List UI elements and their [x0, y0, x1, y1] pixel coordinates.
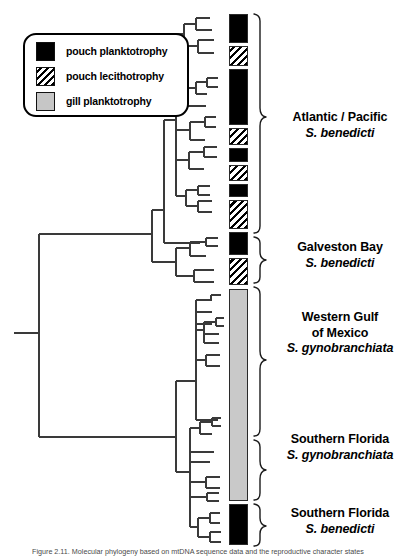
group-species: S. benedicti [272, 522, 408, 538]
group-location-2: of Mexico [272, 326, 408, 342]
black-square-icon [36, 42, 55, 61]
gray-square-icon [36, 92, 55, 111]
group-species: S. benedicti [272, 256, 408, 272]
hatched-square-icon [36, 67, 55, 86]
state-block [229, 504, 248, 545]
group-location: Atlantic / Pacific [272, 110, 408, 126]
state-block [229, 148, 248, 162]
legend-item-pouch-lecithotrophy: pouch lecithotrophy [36, 67, 164, 86]
legend-item-gill-planktotrophy: gill planktotrophy [36, 92, 151, 111]
state-block [229, 289, 248, 501]
group-location: Western Gulf [272, 310, 408, 326]
group-location: Southern Florida [272, 432, 408, 448]
group-species: S. benedicti [272, 126, 408, 142]
state-block [229, 46, 248, 66]
legend-item-label: pouch planktotrophy [66, 42, 168, 61]
group-label-galveston-bay: Galveston Bay S. benedicti [272, 240, 408, 271]
state-block [229, 184, 248, 197]
group-species: S. gynobranchiata [272, 341, 408, 357]
state-block [229, 128, 248, 145]
legend-item-label: gill planktotrophy [66, 92, 151, 111]
phylogeny-figure: pouch planktotrophy pouch lecithotrophy … [0, 0, 409, 560]
group-location: Galveston Bay [272, 240, 408, 256]
group-label-atlantic-pacific: Atlantic / Pacific S. benedicti [272, 110, 408, 141]
group-label-southern-florida-gynobranchiata: Southern Florida S. gynobranchiata [272, 432, 408, 463]
group-label-western-gulf: Western Gulf of Mexico S. gynobranchiata [272, 310, 408, 357]
legend: pouch planktotrophy pouch lecithotrophy … [23, 33, 189, 117]
state-block [229, 165, 248, 181]
group-species: S. gynobranchiata [272, 448, 408, 464]
legend-item-label: pouch lecithotrophy [66, 67, 164, 86]
group-label-southern-florida-benedicti: Southern Florida S. benedicti [272, 506, 408, 537]
state-block [229, 232, 248, 255]
figure-caption: Figure 2.11. Molecular phylogeny based o… [32, 547, 404, 558]
state-block [229, 258, 248, 285]
state-block [229, 69, 248, 125]
group-location: Southern Florida [272, 506, 408, 522]
state-block [229, 200, 248, 229]
legend-item-pouch-planktotrophy: pouch planktotrophy [36, 42, 168, 61]
state-block [229, 14, 248, 43]
